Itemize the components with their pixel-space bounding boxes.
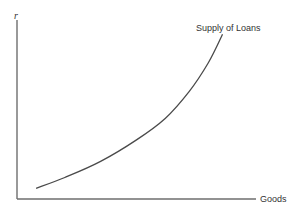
series-label-supply-of-loans: Supply of Loans xyxy=(196,23,261,33)
axes xyxy=(17,20,256,199)
series-layer xyxy=(36,34,222,188)
y-axis-label: r xyxy=(14,10,18,21)
chart: r Goods Supply of Loans xyxy=(0,0,298,216)
series-line-supply-of-loans xyxy=(36,34,222,188)
x-axis-label: Goods xyxy=(260,194,287,204)
